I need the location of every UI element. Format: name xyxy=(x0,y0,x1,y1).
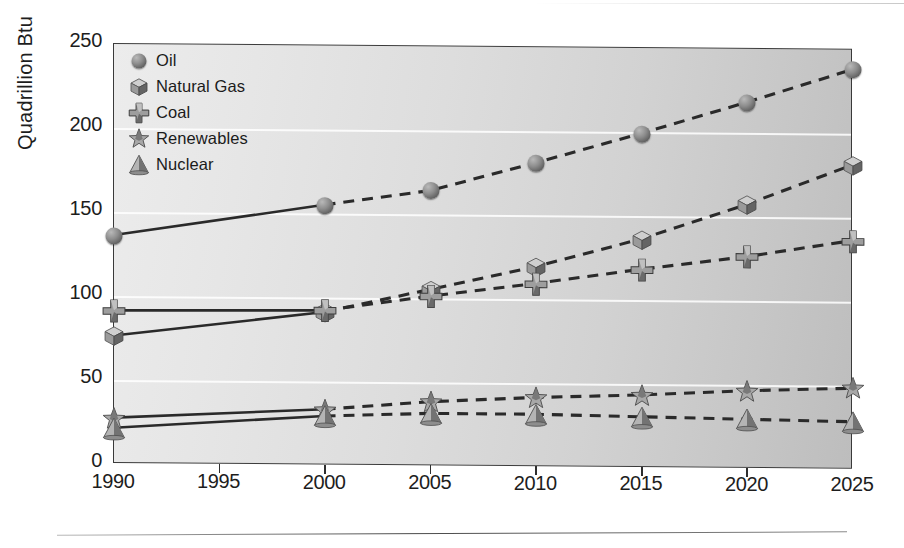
x-tick-label-2010: 2010 xyxy=(497,472,573,495)
x-tick-label-1990: 1990 xyxy=(75,470,151,493)
x-tickmark-1995 xyxy=(219,464,221,473)
line-solid-natural-gas xyxy=(114,310,325,337)
sphere-icon xyxy=(126,50,152,71)
y-tick-label-50: 50 xyxy=(44,365,102,388)
cross-icon xyxy=(126,102,152,123)
x-tick-label-1995: 1995 xyxy=(181,470,257,493)
cone-icon xyxy=(126,154,152,175)
y-tick-label-0: 0 xyxy=(44,449,102,472)
legend-item-natural-gas: Natural Gas xyxy=(126,76,248,97)
x-tickmark-2005 xyxy=(430,465,432,474)
line-dashed-oil xyxy=(325,66,851,209)
x-tickmark-2000 xyxy=(324,465,326,474)
legend-label: Natural Gas xyxy=(156,77,245,96)
line-dashed-nuclear xyxy=(325,413,851,422)
energy-consumption-line-chart: Quadrillion Btu 050100150200250 19901995… xyxy=(0,0,904,548)
line-dashed-coal xyxy=(325,237,851,315)
y-tick-label-250: 250 xyxy=(44,29,102,52)
x-tick-label-2000: 2000 xyxy=(286,471,362,494)
y-tick-label-100: 100 xyxy=(44,281,102,304)
line-solid-oil xyxy=(114,203,325,236)
x-tickmark-2020 xyxy=(746,468,748,477)
y-tick-label-150: 150 xyxy=(44,197,102,220)
legend-item-renewables: Renewables xyxy=(126,128,248,149)
legend-item-nuclear: Nuclear xyxy=(126,154,248,175)
cube-icon xyxy=(126,76,152,97)
chart-page: Quadrillion Btu 050100150200250 19901995… xyxy=(0,0,904,548)
x-tick-label-2025: 2025 xyxy=(814,473,890,496)
chart-legend: Oil Natural Gas Coal Renewables Nuclear xyxy=(126,50,248,175)
legend-item-coal: Coal xyxy=(126,102,248,123)
line-solid-coal xyxy=(114,309,325,312)
legend-label: Nuclear xyxy=(156,155,214,174)
y-tick-label-200: 200 xyxy=(44,113,102,136)
legend-label: Oil xyxy=(156,51,176,70)
line-dashed-renewables xyxy=(325,384,851,413)
legend-label: Renewables xyxy=(156,129,248,148)
y-axis-label: Quadrillion Btu xyxy=(14,0,37,150)
line-dashed-natural-gas xyxy=(325,161,851,316)
x-tickmark-2010 xyxy=(535,466,537,475)
legend-item-oil: Oil xyxy=(126,50,248,71)
legend-label: Coal xyxy=(156,103,190,122)
x-tickmark-2015 xyxy=(641,467,643,476)
star-icon xyxy=(126,128,152,149)
x-tick-label-2005: 2005 xyxy=(392,471,468,494)
